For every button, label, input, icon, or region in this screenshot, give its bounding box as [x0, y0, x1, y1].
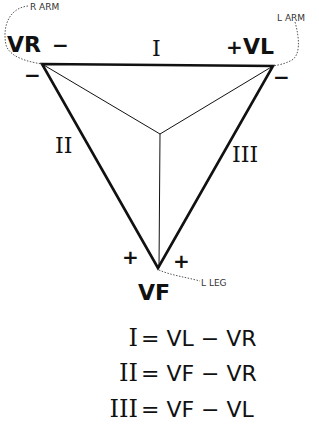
eq-2-expr: = VF − VR — [141, 361, 257, 386]
lead-ii-numeral: II — [55, 133, 72, 158]
inner-line-vf — [159, 134, 160, 268]
inner-line-vl — [160, 66, 273, 134]
einthoven-triangle-diagram: R ARM L ARM L LEG VR VL VF − − + − + + I… — [0, 0, 319, 431]
eq-1-lead: I — [129, 324, 138, 352]
l-arm-label: L ARM — [277, 13, 305, 23]
l-arm-connector — [273, 22, 298, 66]
vl-bottom-sign: − — [273, 65, 290, 89]
eq-3-expr: = VF − VL — [141, 397, 255, 422]
l-leg-label: L LEG — [201, 278, 227, 288]
vf-right-sign: + — [173, 249, 190, 273]
diagram-svg: R ARM L ARM L LEG VR VL VF − − + − + + I… — [0, 0, 319, 431]
inner-line-vr — [42, 64, 160, 134]
eq-2-lead: II — [119, 359, 138, 387]
vr-bottom-sign: − — [24, 63, 41, 87]
vr-label: VR — [7, 32, 41, 57]
vl-top-sign: + — [226, 35, 243, 59]
vf-label: VF — [138, 280, 170, 305]
lead-i-numeral: I — [152, 36, 161, 61]
r-arm-label: R ARM — [30, 2, 59, 12]
vr-top-sign: − — [52, 33, 69, 57]
equations: I = VL − VR II = VF − VR III = VF − VL — [110, 324, 257, 423]
eq-1-expr: = VL − VR — [141, 326, 257, 351]
vf-left-sign: + — [122, 245, 139, 269]
eq-3-lead: III — [110, 395, 138, 423]
lead-iii-numeral: III — [232, 142, 258, 167]
vl-label: VL — [243, 34, 274, 59]
